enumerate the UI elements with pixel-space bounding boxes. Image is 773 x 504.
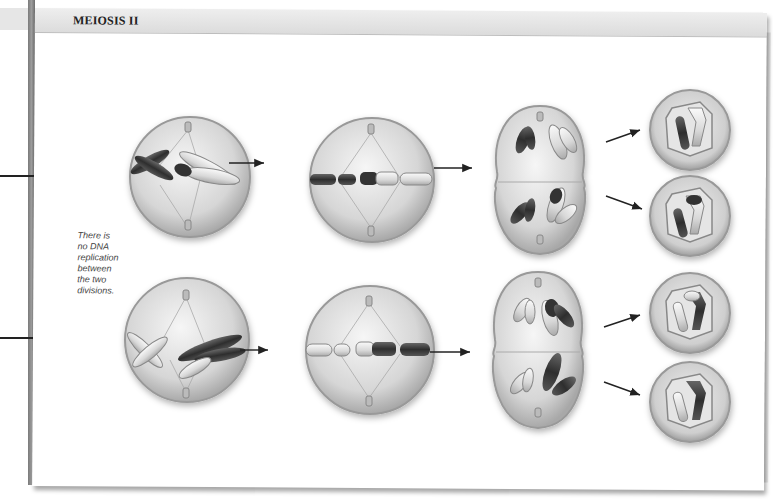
metaphase-ii-cell-top [310,118,434,242]
telophase-ii-cell-bottom [493,272,583,428]
centriole-icon [368,124,374,134]
prophase-ii-cell-top [128,117,250,237]
prophase-ii-cell-bottom [124,278,249,402]
daughter-cell-1 [650,90,730,170]
metaphase-ii-cell-bottom [306,286,434,414]
telophase-ii-cell-top [495,106,585,254]
centriole-icon [368,226,374,236]
meiosis-ii-diagram [0,0,773,504]
arrow-icon [604,315,640,327]
arrow-icon [606,196,642,209]
arrow-icon [604,382,640,395]
daughter-cell-3 [650,273,730,353]
centriole-icon [185,122,191,132]
arrow-icon [606,130,640,142]
daughter-cell-2 [650,176,730,256]
daughter-cell-4 [650,362,730,442]
centriole-icon [185,220,191,230]
